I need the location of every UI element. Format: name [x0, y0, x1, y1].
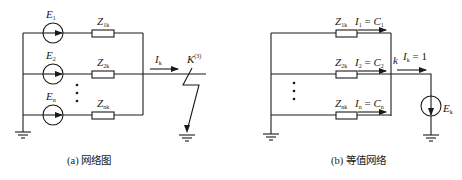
voltage-source-icon — [43, 105, 63, 125]
caption-b: (b) 等值网络 — [331, 154, 387, 167]
source-label: Ek — [442, 102, 453, 115]
impedance-label-n: Znk — [335, 97, 347, 110]
equivalent-network-b: Z1k Z2k Znk I1 = C1 I2 = C2 In = Cn k Ik… — [263, 15, 453, 167]
impedance-label-n: Znk — [97, 97, 109, 110]
network-diagram-a: E1 E2 En Z1k Z2k Znk Ik K(3) — [15, 8, 206, 167]
ellipsis-dots — [293, 82, 296, 101]
impedance-icon — [336, 30, 357, 37]
source-label-1: E1 — [45, 8, 56, 21]
impedance-icon — [92, 30, 114, 37]
impedance-label-2: Z2k — [97, 56, 109, 69]
impedance-label-1: Z1k — [335, 15, 347, 28]
fault-label: K(3) — [186, 53, 201, 65]
voltage-source-icon — [43, 64, 63, 84]
circuit-figure: E1 E2 En Z1k Z2k Znk Ik K(3) — [0, 0, 462, 180]
branch-current-label-1: I1 = C1 — [354, 15, 384, 28]
impedance-icon — [92, 71, 114, 78]
current-label: Ik — [154, 53, 162, 66]
total-current-label: Ik = 1 — [402, 50, 427, 63]
ground-icon — [179, 135, 195, 141]
impedance-label-1: Z1k — [97, 15, 109, 28]
ground-icon — [15, 132, 31, 138]
voltage-source-icon — [421, 96, 441, 116]
ellipsis-dots — [76, 84, 79, 103]
impedance-icon — [336, 112, 357, 119]
ground-icon — [423, 135, 439, 141]
voltage-source-icon — [43, 23, 63, 43]
branch-current-label-2: I2 = C2 — [354, 56, 384, 69]
fault-lightning-icon — [183, 68, 199, 133]
impedance-icon — [336, 71, 357, 78]
node-label: k — [393, 54, 399, 66]
branch-current-label-n: In = Cn — [354, 97, 384, 110]
impedance-label-2: Z2k — [335, 56, 347, 69]
caption-a: (a) 网络图 — [67, 154, 111, 167]
source-label-n: En — [45, 90, 56, 103]
impedance-icon — [92, 112, 114, 119]
source-label-2: E2 — [45, 49, 56, 62]
ground-icon — [263, 134, 279, 140]
